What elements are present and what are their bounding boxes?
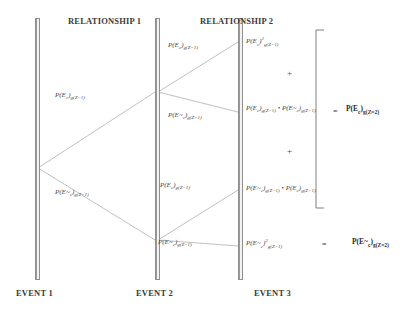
plus-operator-2: + (287, 146, 292, 156)
event-footer-label-3: EVENT 3 (254, 288, 291, 298)
plus-operator-1: + (287, 68, 292, 78)
branch-label-upper-rel1: P(Ec)g(Z=1) (55, 92, 85, 100)
event-footer-label-2: EVENT 2 (136, 288, 173, 298)
event-1-bar (35, 18, 40, 280)
result-ec-z2: P(Ec)g(Z=2) (346, 105, 379, 115)
event-footer-label-1: EVENT 1 (16, 288, 53, 298)
branch-label-lower-lower-rel2: P(E~c)g(Z=1) (158, 239, 192, 247)
probability-tree-diagram: RELATIONSHIP 1RELATIONSHIP 2EVENT 1EVENT… (0, 0, 415, 314)
outcome-term-3: P(E~c)g(Z=1) • P(Ec)g(Z=1) (246, 185, 316, 193)
edge-event2-to-event3-lower-upper (158, 190, 238, 240)
relationship-header-2: RELATIONSHIP 2 (200, 16, 273, 26)
tree-edges-layer (0, 0, 415, 314)
branch-label-upper-upper-rel2: P(Ec)g(Z=1) (168, 42, 198, 50)
outcome-term-4: P(E~c)2g(Z=1) (246, 238, 282, 249)
result-enotc-z2: P(E~c)g(Z=2) (352, 238, 389, 248)
outcome-term-2: P(Ec)g(Z=1) • P(E~c)g(Z=1) (246, 105, 316, 113)
grouping-bracket (316, 30, 324, 208)
edge-event2-to-event3-upper-lower (158, 92, 238, 112)
branch-label-lower-rel1: P(E~c)g(Z=1) (55, 189, 89, 197)
outcome-term-1: P(Ec)2g(Z=1) (246, 36, 278, 47)
equals-operator-1: = (333, 107, 338, 116)
edge-event1-to-event2-lower (38, 168, 155, 240)
branch-label-upper-lower-rel2: P(E~c)g(Z=1) (168, 112, 202, 120)
event-3-bar (238, 18, 243, 280)
edge-event1-to-event2-upper (38, 92, 155, 168)
relationship-header-1: RELATIONSHIP 1 (68, 16, 141, 26)
branch-label-lower-upper-rel2: P(Ec)g(Z=1) (160, 182, 190, 190)
equals-operator-2: = (322, 240, 327, 249)
